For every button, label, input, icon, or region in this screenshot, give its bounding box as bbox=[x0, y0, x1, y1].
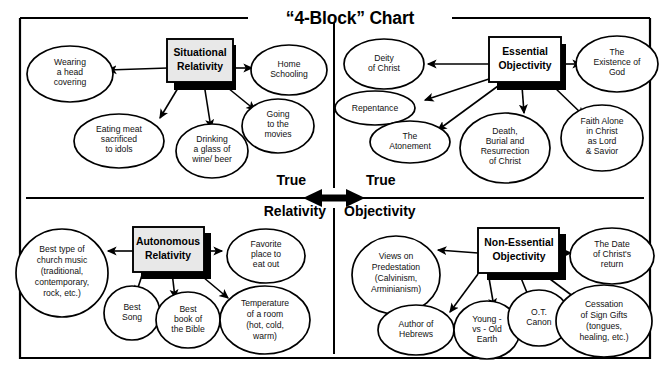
node-line: Home bbox=[278, 59, 301, 69]
node-line: Faith Alone bbox=[581, 116, 624, 126]
node-best-song[interactable]: Best Song bbox=[104, 286, 160, 340]
center-box-non-essential-objectivity[interactable]: Non-Essential Objectivity bbox=[478, 228, 566, 280]
box-line: Autonomous bbox=[136, 236, 200, 247]
node-line: of Sign Gifts bbox=[581, 310, 628, 320]
node-best-book-of-the-bible[interactable]: Best book of the Bible bbox=[156, 292, 220, 348]
node-cessation-of-sign-gifts[interactable]: Cessation of Sign Gifts (tongues, healin… bbox=[556, 285, 652, 357]
node-line: Repentance bbox=[352, 103, 399, 113]
node-line: to the bbox=[267, 119, 289, 129]
box-line: Relativity bbox=[145, 250, 191, 261]
node-line: Favorite bbox=[250, 239, 281, 249]
axis-label-left-line2: Relativity bbox=[264, 203, 326, 219]
node-line: of Christ bbox=[368, 63, 401, 73]
node-repentance[interactable]: Repentance bbox=[335, 91, 415, 125]
center-box-essential-objectivity[interactable]: Essential Objectivity bbox=[489, 37, 566, 90]
node-line: Best bbox=[179, 304, 197, 314]
node-author-of-hebrews[interactable]: Author of Hebrews bbox=[378, 305, 454, 355]
node-line: Schooling bbox=[270, 69, 308, 79]
node-line: Earth bbox=[477, 334, 498, 344]
center-box-autonomous-relativity[interactable]: Autonomous Relativity bbox=[133, 227, 211, 279]
node-line: The Date bbox=[594, 239, 630, 249]
node-line: Cessation bbox=[585, 299, 623, 309]
node-line: Song bbox=[122, 312, 142, 322]
axis-label-right-line1: True bbox=[366, 172, 396, 188]
node-line: of a room bbox=[247, 309, 283, 319]
node-line: & Savior bbox=[586, 146, 619, 156]
node-line: Best type of bbox=[39, 244, 85, 254]
node-temperature-of-a-room[interactable]: Temperature of a room (hot, cold, warm) bbox=[220, 286, 310, 354]
node-line: of Christ's bbox=[593, 249, 631, 259]
node-best-type-of-church-music[interactable]: Best type of church music (traditional, … bbox=[16, 229, 108, 317]
node-views-on-predestation[interactable]: Views on Predestation (Calvinism, Armini… bbox=[352, 236, 440, 314]
node-line: Author of bbox=[399, 319, 434, 329]
node-line: healing, etc.) bbox=[579, 332, 628, 342]
node-line: contemporary, bbox=[35, 277, 89, 287]
node-line: wine/ beer bbox=[191, 154, 232, 164]
node-line: (traditional, bbox=[41, 266, 84, 276]
node-line: church music bbox=[37, 255, 88, 265]
box-line: Objectivity bbox=[492, 251, 545, 262]
node-line: Arminianism) bbox=[371, 284, 421, 294]
node-line: sacrificed bbox=[101, 134, 138, 144]
node-line: as Lord bbox=[588, 136, 617, 146]
node-death-burial-resurrection-of-christ[interactable]: Death, Burial and Resurrection of Christ bbox=[460, 113, 550, 183]
node-the-date-of-christs-return[interactable]: The Date of Christ's return bbox=[570, 228, 654, 284]
node-line: book of bbox=[174, 314, 203, 324]
node-line: return bbox=[601, 259, 624, 269]
node-line: in Christ bbox=[586, 126, 618, 136]
node-line: vs - Old bbox=[472, 324, 502, 334]
node-line: Canon bbox=[526, 317, 552, 327]
node-line: Young - bbox=[472, 314, 501, 324]
node-line: covering bbox=[54, 77, 87, 87]
node-drinking-glass-of-wine-beer[interactable]: Drinking a glass of wine/ beer bbox=[176, 124, 248, 178]
node-line: a head bbox=[57, 67, 84, 77]
box-line: Objectivity bbox=[498, 60, 551, 71]
node-line: place to bbox=[251, 249, 281, 259]
four-block-chart: “4-Block” Chart True Relativity True Obj… bbox=[0, 0, 668, 377]
node-line: Views on bbox=[379, 251, 414, 261]
center-box-situational-relativity[interactable]: Situational Relativity bbox=[167, 39, 236, 90]
node-line: Atonement bbox=[389, 141, 431, 151]
node-line: Death, bbox=[492, 126, 517, 136]
node-line: Wearing bbox=[54, 57, 86, 67]
node-line: The bbox=[403, 131, 418, 141]
node-line: (tongues, bbox=[586, 321, 622, 331]
chart-title: “4-Block” Chart bbox=[286, 8, 415, 28]
node-line: Going bbox=[267, 109, 290, 119]
node-line: Best bbox=[123, 302, 141, 312]
node-line: eat out bbox=[253, 259, 280, 269]
node-line: Eating meat bbox=[96, 124, 142, 134]
box-line: Relativity bbox=[177, 61, 223, 72]
node-line: Hebrews bbox=[399, 329, 433, 339]
box-line: Situational bbox=[173, 47, 226, 58]
node-line: of Christ bbox=[489, 156, 522, 166]
node-line: warm) bbox=[252, 331, 277, 341]
node-line: Resurrection bbox=[481, 146, 530, 156]
node-line: rock, etc.) bbox=[43, 288, 81, 298]
box-line: Essential bbox=[502, 46, 548, 57]
node-line: Predestation bbox=[372, 262, 420, 272]
node-deity-of-christ[interactable]: Deity of Christ bbox=[344, 39, 424, 89]
node-line: Burial and bbox=[486, 136, 525, 146]
node-line: God bbox=[609, 67, 625, 77]
node-line: to idols bbox=[105, 144, 132, 154]
node-the-existence-of-god[interactable]: The Existence of God bbox=[576, 36, 658, 92]
node-line: the Bible bbox=[171, 324, 205, 334]
node-line: The bbox=[610, 47, 625, 57]
axis-label-left-line1: True bbox=[276, 172, 306, 188]
node-line: Existence of bbox=[594, 57, 641, 67]
node-line: Deity bbox=[374, 53, 394, 63]
node-going-to-the-movies[interactable]: Going to the movies bbox=[242, 99, 314, 153]
node-line: Temperature bbox=[241, 298, 289, 308]
node-eating-meat-sacrificed-to-idols[interactable]: Eating meat sacrificed to idols bbox=[74, 114, 164, 168]
node-faith-alone-in-christ[interactable]: Faith Alone in Christ as Lord & Savior bbox=[561, 105, 643, 171]
node-the-atonement[interactable]: The Atonement bbox=[370, 121, 450, 163]
node-line: movies bbox=[264, 129, 291, 139]
node-line: (Calvinism, bbox=[375, 273, 418, 283]
box-line: Non-Essential bbox=[484, 237, 553, 248]
node-wearing-head-covering[interactable]: Wearing a head covering bbox=[27, 46, 113, 102]
node-line: O.T. bbox=[531, 307, 547, 317]
node-line: a glass of bbox=[194, 144, 231, 154]
node-home-schooling[interactable]: Home Schooling bbox=[251, 45, 327, 95]
node-favorite-place-to-eat-out[interactable]: Favorite place to eat out bbox=[227, 229, 305, 283]
